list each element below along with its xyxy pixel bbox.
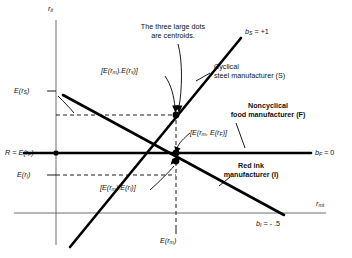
series-desc-food-line1: Noncyclical: [248, 101, 288, 110]
y-axis-label: rit: [48, 4, 53, 14]
series-desc-steel-line1: Cyclical: [214, 62, 239, 71]
centroid-note-line2: are centroids.: [151, 31, 195, 40]
y-tick-label-ErI: E(rI): [17, 170, 30, 180]
y-tick-label-ErS: E(rS): [14, 86, 29, 96]
series-desc-steel-line2: steel manufacturer (S): [214, 71, 285, 80]
centroid-label-I: [E(rm).E(rI)]: [100, 183, 136, 193]
leader-centroid-note: [178, 44, 182, 107]
centroid-label-F: [E(rm, E(rF)]: [190, 128, 227, 138]
beta-label-redink: bI = - .5: [256, 219, 280, 229]
x-tick-label-Erm: E(rm): [160, 236, 176, 246]
leader-point-S: [165, 76, 175, 107]
series-desc-food: Noncyclical food manufacturer (F): [204, 101, 332, 119]
centroid-note: The three large dots are centroids.: [119, 22, 227, 40]
series-desc-redink-line1: Red ink: [238, 161, 264, 170]
series-desc-redink-line2: manufacturer (I): [224, 170, 279, 179]
x-axis-label: rmt: [316, 199, 324, 209]
centroid-dot-S: [173, 112, 180, 119]
series-desc-steel: Cyclical steel manufacturer (S): [214, 62, 285, 80]
leader-point-I: [150, 166, 174, 190]
leader-desc-food: [236, 123, 245, 148]
figure-container: rit rmt The three large dots are centroi…: [0, 0, 352, 258]
beta-label-steel: bS = +1: [245, 27, 269, 37]
series-desc-redink: Red ink manufacturer (I): [196, 161, 306, 179]
centroid-note-line1: The three large dots: [141, 22, 205, 31]
beta-label-food: bF = 0: [315, 148, 334, 158]
series-desc-food-line2: food manufacturer (F): [231, 110, 306, 119]
y-tick-label-R-ErF: R = E(rF): [5, 148, 34, 158]
centroid-label-S: [E(rm).E(rs)]: [101, 66, 138, 76]
leader-point-F: [177, 133, 190, 148]
